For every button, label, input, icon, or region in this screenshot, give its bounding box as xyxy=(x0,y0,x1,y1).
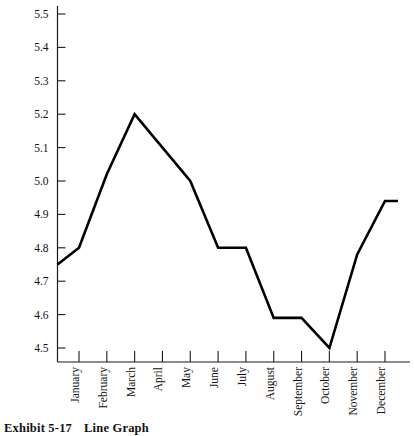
x-axis-tick-labels: JanuaryFebruaryMarchAprilMayJuneJulyAugu… xyxy=(69,366,387,416)
y-tick-label: 4.6 xyxy=(34,309,49,321)
y-axis-ticks xyxy=(58,14,66,348)
caption-title: Line Graph xyxy=(84,421,149,435)
y-tick-label: 5.1 xyxy=(34,142,49,154)
x-tick-label: February xyxy=(97,367,110,409)
y-tick-label: 5.2 xyxy=(34,108,49,120)
x-tick-label: November xyxy=(347,367,359,416)
x-tick-label: October xyxy=(319,367,331,404)
x-tick-label: September xyxy=(292,367,305,416)
y-tick-label: 5.4 xyxy=(34,41,49,53)
data-series-group xyxy=(58,114,399,348)
x-tick-label: January xyxy=(69,367,82,403)
x-tick-label: March xyxy=(125,367,137,397)
data-line-series-1 xyxy=(58,114,399,348)
x-tick-label: June xyxy=(208,367,220,388)
caption-exhibit-number: Exhibit 5-17 xyxy=(4,421,72,435)
x-tick-label: April xyxy=(152,367,165,391)
x-axis-ticks xyxy=(79,351,385,362)
y-tick-label: 4.8 xyxy=(34,242,49,254)
y-tick-label: 4.9 xyxy=(34,208,49,220)
y-tick-label: 5.0 xyxy=(34,175,49,187)
x-tick-label: July xyxy=(236,367,249,386)
y-tick-label: 4.7 xyxy=(34,275,49,287)
figure-caption: Exhibit 5-17Line Graph xyxy=(4,421,149,436)
y-tick-label: 5.5 xyxy=(34,8,49,20)
y-tick-label: 5.3 xyxy=(34,75,49,87)
x-tick-label: May xyxy=(180,367,193,388)
x-tick-label: December xyxy=(375,367,387,414)
y-tick-label: 4.5 xyxy=(34,342,49,354)
y-axis-tick-labels: 4.54.64.74.84.95.05.15.25.35.45.5 xyxy=(34,8,49,354)
x-tick-label: August xyxy=(264,366,277,400)
chart-axes xyxy=(58,6,411,362)
